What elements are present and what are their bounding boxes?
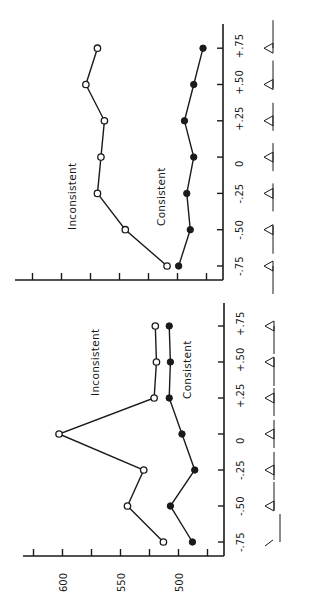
open-circle-marker [152,323,158,329]
series-label-consistent: Consistent [155,167,167,226]
triangle-icon [264,43,273,53]
condition-axis-label: -.25 [235,460,246,480]
triangle-icon [265,501,274,511]
series-line-inconsistent [59,326,163,542]
series-label-consistent: Consistent [181,340,193,399]
triangle-icon [265,429,274,439]
series-label-inconsistent: Inconsistent [66,163,78,230]
filled-circle-marker [184,190,190,196]
condition-axis-label: -.25 [234,184,245,204]
filled-circle-marker [189,539,195,545]
filled-circle-marker [191,81,197,87]
triangle-icon [264,225,273,235]
filled-circle-marker [200,45,206,51]
open-circle-marker [98,154,104,160]
line-chart-top: -.75-.50-.250+.25+.50+.75InconsistentCon… [0,0,315,300]
triangle-icon [264,80,273,90]
condition-axis-label: +.50 [234,70,245,94]
open-circle-marker [94,45,100,51]
condition-axis-label: -.50 [235,496,246,516]
condition-axis-label: +.25 [234,107,245,131]
tilted-line-icon [265,540,273,546]
triangle-icon [264,152,273,162]
chart-panel-bottom: 500550600-.75-.50-.250+.25+.50+.75Incons… [0,300,315,609]
open-circle-marker [124,503,130,509]
value-axis-label: 550 [116,573,127,592]
line-chart-bottom: 500550600-.75-.50-.250+.25+.50+.75Incons… [0,300,315,609]
open-circle-marker [101,118,107,124]
triangle-icon [265,465,274,475]
value-axis-label: 500 [174,573,185,592]
series-label-inconsistent: Inconsistent [89,329,101,396]
filled-circle-marker [166,323,172,329]
filled-circle-marker [167,359,173,365]
open-circle-marker [164,263,170,269]
open-circle-marker [56,431,62,437]
value-axis-label: 600 [58,573,69,592]
condition-axis-label: -.75 [235,532,246,552]
open-circle-marker [160,539,166,545]
open-circle-marker [141,467,147,473]
open-circle-marker [122,227,128,233]
open-circle-marker [94,190,100,196]
filled-circle-marker [181,118,187,124]
filled-circle-marker [191,154,197,160]
condition-axis-label: +.75 [235,312,246,336]
triangle-icon [264,261,273,271]
condition-axis-label: -.50 [234,220,245,240]
filled-circle-marker [166,395,172,401]
condition-axis-label: +.25 [235,384,246,408]
filled-circle-marker [192,467,198,473]
triangle-icon [265,321,274,331]
triangle-icon [264,188,273,198]
condition-axis-label: 0 [234,161,245,167]
filled-circle-marker [167,503,173,509]
open-circle-marker [151,395,157,401]
condition-axis-label: -.75 [234,256,245,276]
condition-axis-label: +.50 [235,348,246,372]
triangle-icon [264,116,273,126]
chart-panel-top: -.75-.50-.250+.25+.50+.75InconsistentCon… [0,0,315,300]
condition-axis-label: 0 [235,438,246,444]
open-circle-marker [153,359,159,365]
triangle-icon [265,393,274,403]
open-circle-marker [83,81,89,87]
filled-circle-marker [187,227,193,233]
triangle-icon [265,357,274,367]
condition-axis-label: +.75 [234,34,245,58]
filled-circle-marker [175,263,181,269]
filled-circle-marker [179,431,185,437]
